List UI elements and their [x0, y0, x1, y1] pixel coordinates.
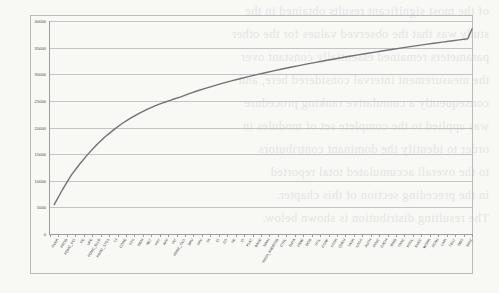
x-category-label: PLAT — [246, 238, 254, 247]
x-category-label: MISC — [465, 238, 473, 248]
x-category-label: WORK — [422, 238, 431, 249]
x-category-label: TEST — [448, 238, 456, 248]
x-category-label: APP — [162, 238, 169, 246]
x-axis-category-labels: OVERPRODPDMC_PCIPEUPEPDMC_ELLBPDMC_STG1T… — [49, 234, 471, 272]
y-tick-label: 0 — [44, 232, 46, 237]
chart-frame: 0500010000150002000025000300003500040000… — [30, 15, 473, 274]
x-category-label: LINK — [440, 238, 448, 247]
y-tick-label: 5000 — [37, 205, 46, 210]
x-category-label: CI — [215, 238, 220, 243]
x-category-label: PRT — [154, 238, 161, 246]
x-category-label: SE — [231, 238, 237, 244]
x-category-label: CTRL — [279, 238, 287, 248]
x-tick — [472, 234, 473, 237]
x-category-label: DRV — [187, 238, 194, 246]
x-category-label: BASE — [254, 238, 262, 248]
x-category-label: SYNC — [372, 238, 381, 248]
x-category-label: DBG — [457, 238, 464, 247]
x-category-label: MOD — [305, 238, 313, 247]
x-category-label: SYS — [128, 238, 135, 246]
x-category-label: LOGS — [355, 238, 364, 248]
x-category-label: SRV — [196, 238, 203, 246]
x-category-label: STOR — [330, 238, 339, 248]
x-category-label: SCAN — [431, 238, 440, 248]
y-tick-label: 15000 — [35, 152, 46, 157]
y-tick-label: 20000 — [35, 125, 46, 130]
x-category-label: CO — [222, 238, 228, 245]
plot-area: 0500010000150002000025000300003500040000 — [49, 21, 472, 235]
x-category-label: AUTH — [363, 238, 371, 248]
y-tick-label: 30000 — [35, 72, 46, 77]
y-tick-label: 40000 — [35, 19, 46, 24]
x-category-label: MEM — [136, 238, 144, 247]
x-category-label: NET — [145, 238, 152, 246]
cumulative-curve — [50, 21, 472, 234]
x-category-label: VIEW — [296, 238, 304, 248]
y-tick-label: 35000 — [35, 45, 46, 50]
x-category-label: TR — [206, 238, 212, 244]
y-tick-label: 25000 — [35, 98, 46, 103]
y-tick-label: 10000 — [35, 178, 46, 183]
x-category-label: CORE — [118, 238, 127, 249]
x-category-label: DATA — [288, 238, 296, 248]
x-category-label: CONF — [321, 238, 330, 249]
x-category-label: PE — [79, 238, 85, 244]
x-category-label: TRAC — [397, 238, 405, 248]
x-category-label: POOL — [406, 238, 415, 248]
x-category-label: CACH — [380, 238, 389, 249]
x-category-label: INT — [171, 238, 177, 245]
x-category-label: IO — [240, 238, 245, 243]
x-category-label: TJ — [113, 238, 118, 243]
x-category-label: QUEU — [338, 238, 347, 249]
x-category-label: OVER — [51, 238, 60, 249]
